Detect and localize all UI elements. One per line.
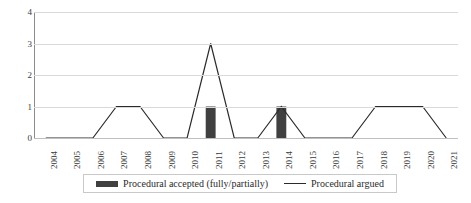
gridline	[34, 138, 458, 139]
plot-area	[34, 12, 458, 138]
chart-container: 01234 2004200520062007200820092010201120…	[0, 0, 471, 203]
line-series-procedural-argued	[46, 44, 446, 139]
legend-item-label: Procedural argued	[311, 179, 384, 189]
y-tick-label: 3	[6, 40, 32, 49]
y-axis-ticks: 01234	[0, 0, 32, 203]
y-tick-label: 4	[6, 8, 32, 17]
gridline	[34, 12, 458, 13]
gridline	[34, 75, 458, 76]
legend-item-label: Procedural accepted (fully/partially)	[123, 179, 268, 189]
x-axis-ticks: 2004200520062007200820092010201120122013…	[34, 141, 458, 173]
gridline	[34, 44, 458, 45]
y-tick-label: 1	[6, 103, 32, 112]
y-tick-label: 0	[6, 134, 32, 143]
legend-item-procedural-argued: Procedural argued	[284, 179, 384, 189]
y-tick-label: 2	[6, 71, 32, 80]
chart-legend: Procedural accepted (fully/partially) Pr…	[83, 174, 397, 193]
gridline	[34, 107, 458, 108]
bar-swatch-icon	[96, 181, 118, 187]
legend-item-procedural-accepted: Procedural accepted (fully/partially)	[96, 179, 268, 189]
line-swatch-icon	[284, 183, 306, 184]
bar-2011	[206, 107, 216, 139]
